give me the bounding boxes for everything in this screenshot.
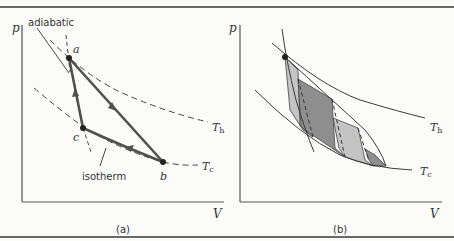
arrow-c-a-icon: [72, 88, 79, 97]
th-label-a: Th: [212, 121, 225, 135]
point-c: [80, 125, 86, 131]
adiabatic-leader-line: [37, 28, 69, 73]
point-c-label: c: [73, 131, 79, 144]
shade-region-3: [333, 118, 373, 166]
th-label-b: Th: [430, 121, 443, 135]
isotherm-label: isotherm: [82, 171, 126, 182]
point-b-label: b: [160, 170, 167, 183]
panel-b: p V Th Tc (b): [229, 21, 443, 235]
point-b: [160, 159, 166, 165]
v-axis-label-b: V: [430, 207, 440, 221]
path-b-to-c: [83, 128, 163, 162]
v-axis-label-a: V: [213, 207, 223, 221]
tc-label-a: Tc: [202, 160, 214, 174]
adiabatic-label: adiabatic: [28, 17, 74, 28]
tc-label-b: Tc: [420, 165, 432, 179]
point-a-label: a: [73, 43, 80, 56]
p-axis-label-b: p: [229, 21, 237, 35]
isotherm-tc-dashed: [34, 88, 198, 165]
figure-canvas: p V adiabatic a b c isotherm Th Tc (a): [0, 0, 454, 241]
panel-a: p V adiabatic a b c isotherm Th Tc (a): [12, 17, 225, 235]
caption-a: (a): [116, 224, 130, 235]
start-point-b: [282, 54, 288, 60]
isotherm-leader-line: [100, 148, 106, 166]
p-axis-label-a: p: [12, 21, 20, 35]
caption-b: (b): [333, 224, 347, 235]
point-a: [66, 55, 72, 61]
